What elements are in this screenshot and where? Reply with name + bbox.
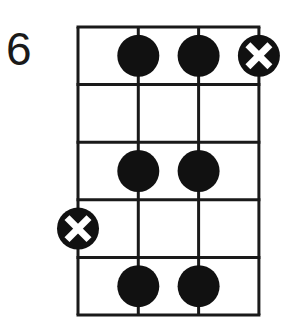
note-dot-icon xyxy=(117,150,159,192)
note-dot-icon xyxy=(178,265,220,307)
note-dot-icon xyxy=(117,35,159,77)
note-dot-icon xyxy=(178,150,220,192)
note-dot-icon xyxy=(178,35,220,77)
note-dot-icon xyxy=(117,265,159,307)
fretboard xyxy=(0,0,294,335)
